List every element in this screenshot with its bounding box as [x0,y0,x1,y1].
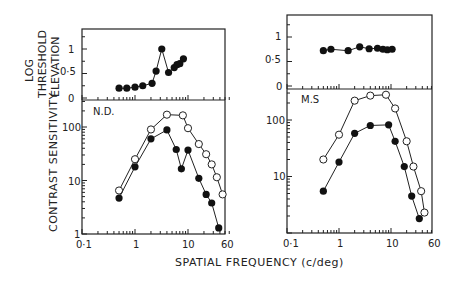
filled-marker [195,175,202,182]
filled-marker [165,69,172,76]
filled-marker [178,165,185,172]
svg-text:10: 10 [386,238,399,249]
subject-label-ms: M.S [301,94,319,105]
filled-marker [327,46,334,53]
open-marker [392,105,399,112]
filled-marker [147,135,154,142]
filled-marker [173,146,180,153]
data-series [115,43,428,231]
open-marker [421,209,428,216]
svg-text:10: 10 [68,176,81,187]
subject-label-nd: N.D. [93,106,115,117]
filled-marker [163,126,170,133]
ylabel-log: LOG [23,59,36,82]
svg-text:60: 60 [428,238,441,249]
open-marker [208,161,215,168]
filled-marker [389,46,396,53]
filled-marker [345,47,352,54]
filled-marker [123,85,130,92]
open-marker [410,163,417,170]
y-axis-title-bottom: CONTRAST SENSITIVITY [47,92,60,232]
ylabel-threshold: THRESHOLD [36,30,49,99]
open-marker [351,97,358,104]
open-marker [213,174,220,181]
filled-marker [367,122,374,129]
filled-marker [152,67,159,74]
svg-text:1: 1 [133,239,139,250]
filled-marker [385,121,392,128]
open-marker [403,138,410,145]
x-axis-title: SPATIAL FREQUENCY (c/deg) [175,256,344,269]
filled-marker [208,199,215,206]
svg-text:10: 10 [182,239,195,250]
filled-marker [335,158,342,165]
filled-marker [356,43,363,50]
svg-text:100: 100 [266,115,285,126]
svg-text:100: 100 [62,122,81,133]
svg-text:0·1: 0·1 [76,239,92,250]
svg-text:1: 1 [68,44,74,55]
svg-text:10: 10 [273,171,286,182]
open-marker [320,156,327,163]
filled-marker [392,138,399,145]
left-bottom-yticks: 100 10 1 [62,122,81,240]
left-xticks: 0·1 1 10 60 [76,239,234,250]
filled-marker [320,188,327,195]
open-marker [184,125,191,132]
svg-text:1: 1 [275,31,281,42]
svg-text:0·5: 0·5 [60,66,76,77]
filled-marker [416,215,423,222]
filled-marker [115,194,122,201]
filled-marker [203,191,210,198]
svg-text:1: 1 [337,238,343,249]
filled-marker [184,147,191,154]
svg-text:0·5: 0·5 [265,54,281,65]
filled-marker [401,163,408,170]
svg-text:60: 60 [221,239,234,250]
filled-marker [158,45,165,52]
open-marker [382,91,389,98]
filled-marker [115,85,122,92]
filled-marker [366,45,373,52]
right-top-yticks: 1 0·5 0 [265,31,282,92]
filled-marker [320,47,327,54]
right-xticks: 0·1 1 10 60 [283,238,441,249]
svg-text:0: 0 [68,93,74,104]
filled-marker [351,130,358,137]
filled-marker [131,84,138,91]
filled-marker [180,55,187,62]
open-marker [219,191,226,198]
series-line [119,130,219,228]
open-marker [335,131,342,138]
svg-text:0·1: 0·1 [283,238,299,249]
open-marker [418,188,425,195]
figure: LOG THRESHOLD ELEVATION CONTRAST SENSITI… [0,0,460,293]
filled-marker [131,163,138,170]
svg-text:0: 0 [276,81,282,92]
y-axis-title-top: LOG THRESHOLD ELEVATION [23,30,62,99]
filled-marker [139,82,146,89]
filled-marker [148,80,155,87]
axis-ticks [82,25,431,234]
open-marker [367,92,374,99]
right-bottom-yticks: 100 10 [266,115,286,182]
filled-marker [408,192,415,199]
open-marker [203,151,210,158]
open-marker [179,112,186,119]
open-marker [195,140,202,147]
open-marker [147,126,154,133]
open-marker [163,111,170,118]
left-top-yticks: 1 0·5 0 [60,44,76,104]
filled-marker [215,224,222,231]
